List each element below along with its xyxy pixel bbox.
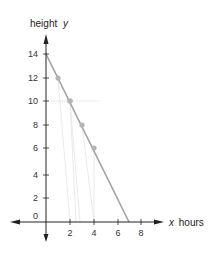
y-tick-label: 2 — [33, 193, 38, 203]
data-point — [55, 75, 60, 80]
data-point — [67, 98, 73, 104]
y-tick-label: 12 — [28, 73, 38, 83]
chart: 14 12 10 8 6 4 2 0 2 4 6 8 height y x ho… — [0, 0, 214, 256]
y-tick-label: 0 — [33, 211, 38, 221]
y-axis-title: height y — [30, 18, 69, 29]
y-tick-label: 4 — [33, 170, 38, 180]
y-axis-up-arrow-icon — [44, 34, 49, 44]
data-point — [79, 122, 84, 127]
x-axis-var: x — [168, 217, 175, 228]
x-tick-label: 6 — [115, 228, 120, 238]
y-axis-down-arrow-icon — [44, 234, 49, 242]
x-axis-left-arrow-icon — [10, 220, 20, 225]
x-tick-labels: 2 4 6 8 — [67, 228, 143, 238]
x-tick-label: 2 — [67, 228, 72, 238]
data-point — [91, 145, 96, 150]
y-tick-label: 6 — [33, 143, 38, 153]
x-axis-word: hours — [179, 217, 204, 228]
y-tick-label: 10 — [28, 96, 38, 106]
y-tick-labels: 14 12 10 8 6 4 2 0 — [28, 49, 38, 221]
y-tick-label: 8 — [33, 120, 38, 130]
y-axis-word: height — [30, 18, 57, 29]
x-tick-label: 4 — [91, 228, 96, 238]
x-tick-label: 8 — [138, 228, 143, 238]
y-axis-var: y — [62, 18, 69, 29]
x-axis-right-arrow-icon — [154, 220, 164, 225]
y-tick-label: 14 — [28, 49, 38, 59]
x-axis-title: x hours — [168, 217, 204, 228]
